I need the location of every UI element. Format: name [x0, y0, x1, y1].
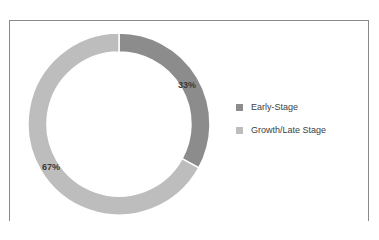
legend-item-early-stage: Early-Stage: [236, 100, 326, 114]
data-label-early-stage: 33%: [178, 80, 196, 90]
data-label-growth-late-stage: 67%: [42, 162, 60, 172]
legend: Early-Stage Growth/Late Stage: [236, 100, 326, 146]
legend-label: Early-Stage: [251, 102, 298, 112]
legend-item-growth-late-stage: Growth/Late Stage: [236, 123, 326, 137]
legend-swatch-icon: [236, 104, 243, 111]
legend-label: Growth/Late Stage: [251, 125, 326, 135]
donut-segments: [28, 33, 210, 215]
donut-segment-early-stage: [119, 33, 210, 168]
legend-swatch-icon: [236, 127, 243, 134]
